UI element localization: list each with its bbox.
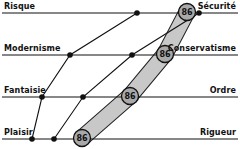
label-plaisir: Plaisir (4, 129, 33, 137)
svg-text:86: 86 (181, 8, 193, 17)
diagram-canvas: 86 86 86 86 (0, 0, 240, 149)
label-modernisme: Modernisme (4, 45, 61, 53)
path-1-point-risque (134, 10, 140, 16)
label-fantaisie: Fantaisie (4, 87, 46, 95)
path-2-point-fantaisie (80, 94, 86, 100)
path-1-point-fantaisie (39, 94, 45, 100)
badge-86-rigueur: 86 (74, 130, 91, 147)
label-conservatisme: Conservatisme (168, 45, 236, 53)
svg-text:86: 86 (124, 92, 136, 101)
path-2-point-securite (196, 10, 202, 16)
axis-lines (2, 13, 238, 139)
label-securite: Sécurité (198, 3, 236, 11)
profile-path-1 (29, 10, 140, 142)
path-2-point-plaisir (51, 136, 57, 142)
badge-86-ordre: 86 (122, 88, 139, 105)
badge-86-securite: 86 (179, 4, 196, 21)
label-risque: Risque (4, 3, 35, 11)
label-ordre: Ordre (210, 87, 236, 95)
bipolar-axes-diagram: 86 86 86 86 Risque Modernisme Fantaisie … (0, 0, 240, 149)
path-1-point-plaisir (29, 136, 35, 142)
label-rigueur: Rigueur (200, 129, 236, 137)
path-2-point-modernisme (129, 52, 135, 58)
svg-text:86: 86 (76, 134, 88, 143)
path-1-point-modernisme (67, 52, 73, 58)
